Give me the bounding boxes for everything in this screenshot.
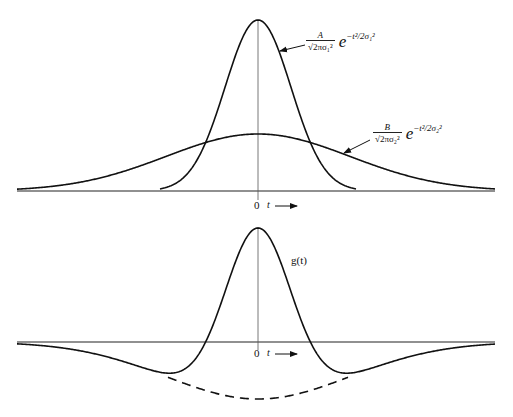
curve-a-denominator: √2πσ₁² <box>306 40 335 53</box>
g-of-t-label: g(t) <box>291 254 307 266</box>
curve-a-fraction: A √2πσ₁² <box>306 30 335 53</box>
top-plot <box>17 20 495 206</box>
bottom-plot <box>17 227 495 399</box>
curve-a-pointer-arrow <box>280 45 305 51</box>
curve-a-exponential: e−t²/2σ₁² <box>339 32 375 51</box>
top-origin-label: 0 <box>254 199 260 211</box>
curve-b-fraction: B √2πσ₂² <box>373 122 402 145</box>
curve-b-denominator: √2πσ₂² <box>373 132 402 145</box>
bottom-origin-label: 0 <box>254 347 260 359</box>
negative-wide-gaussian-dashed-curve <box>168 377 348 399</box>
curve-b-formula: B √2πσ₂² e−t²/2σ₂² <box>373 122 442 145</box>
top-t-axis-label: t <box>267 199 270 210</box>
curve-b-pointer-arrow <box>344 140 370 153</box>
curve-a-numerator: A <box>316 30 326 40</box>
curve-b-numerator: B <box>383 122 393 132</box>
curve-a-exponent: −t²/2σ₁² <box>346 31 375 41</box>
curve-b-exponent: −t²/2σ₂² <box>413 123 442 133</box>
curve-b-exponential: e−t²/2σ₂² <box>406 124 442 143</box>
curve-a-formula: A √2πσ₁² e−t²/2σ₁² <box>306 30 375 53</box>
bottom-t-axis-label: t <box>267 347 270 358</box>
